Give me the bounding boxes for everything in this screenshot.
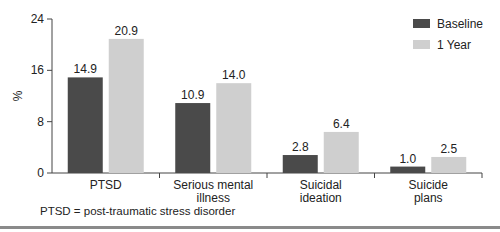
y-tick-label: 8 [37,115,44,129]
x-tick-label: Serious mental [173,178,253,192]
x-tick-label: illness [197,191,230,205]
value-label: 14.9 [74,62,98,76]
value-label: 20.9 [115,24,139,38]
y-tick-label: 0 [37,166,44,180]
bars: 14.920.910.914.02.86.41.02.5 [68,24,467,173]
bar-baseline [390,167,425,173]
legend-swatch [413,19,430,28]
footnote: PTSD = post-traumatic stress disorder [40,205,235,217]
bar-baseline [175,103,210,173]
bar-baseline [283,155,318,173]
value-label: 1.0 [399,152,416,166]
bar-chart: 081624%PTSDSerious mentalillnessSuicidal… [0,0,500,232]
value-label: 2.8 [292,140,309,154]
x-tick-label: plans [414,191,443,205]
y-axis-label: % [11,90,25,101]
legend-label: Baseline [437,17,483,31]
value-label: 10.9 [181,88,205,102]
x-tick-label: Suicidal [300,178,342,192]
legend: Baseline1 Year [413,17,483,52]
legend-swatch [413,40,430,49]
x-tick-label: Suicide [409,178,449,192]
value-label: 6.4 [333,117,350,131]
x-tick-label: ideation [300,191,342,205]
value-label: 2.5 [440,142,457,156]
x-tick-label: PTSD [90,178,122,192]
y-tick-label: 16 [31,63,45,77]
bottom-rule [0,226,500,229]
bar-1-year [431,157,466,173]
bar-1-year [109,39,144,173]
bar-baseline [68,77,103,173]
bar-1-year [216,83,251,173]
y-tick-label: 24 [31,12,45,26]
value-label: 14.0 [222,68,246,82]
bar-1-year [324,132,359,173]
legend-label: 1 Year [437,38,471,52]
